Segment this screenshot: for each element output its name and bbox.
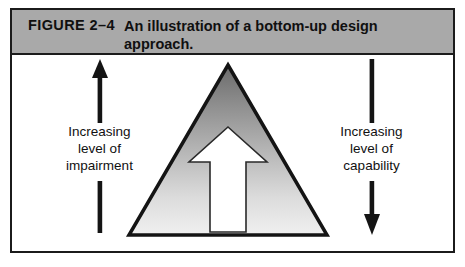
arrow-down-icon (361, 181, 383, 235)
figure-caption-bar: FIGURE 2–4 An illustration of a bottom-u… (12, 10, 453, 55)
figure-root: FIGURE 2–4 An illustration of a bottom-u… (0, 0, 465, 267)
figure-frame: FIGURE 2–4 An illustration of a bottom-u… (10, 8, 455, 253)
arrow-shaft-icon (89, 181, 111, 233)
arrow-shaft-icon (361, 59, 383, 123)
right-axis-group: Increasing level of capability (304, 55, 439, 255)
bottom-up-triangle (127, 59, 332, 243)
right-axis-label: Increasing level of capability (304, 123, 439, 174)
arrow-up-icon (89, 59, 111, 123)
diagram-canvas: Increasing level of impairment (12, 55, 453, 251)
figure-number-label: FIGURE 2–4 (28, 17, 115, 33)
figure-caption-text: An illustration of a bottom-up design ap… (124, 17, 437, 53)
triangle-with-arrow-graphic (127, 59, 332, 243)
